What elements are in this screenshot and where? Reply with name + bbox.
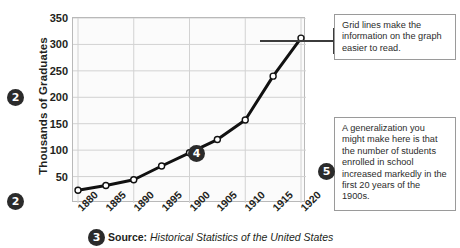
data-point — [103, 183, 109, 189]
source-text: Historical Statistics of the United Stat… — [150, 231, 333, 243]
y-tick-label: 350 — [38, 12, 68, 24]
gridlines — [73, 18, 306, 203]
chart-plot-area — [72, 17, 305, 202]
callout-leader-line — [260, 40, 334, 42]
x-axis-tick-labels: 188018851890189519001905191019151920 — [72, 203, 305, 233]
data-point — [270, 73, 276, 79]
source-label: Source: — [108, 231, 147, 243]
data-point — [159, 163, 165, 169]
y-axis-tick-labels: 350 300 250 200 150 100 50 — [32, 0, 68, 248]
step-marker-2-y-axis: 2 — [7, 89, 24, 106]
callout-generalization-note: A generalization you might make here is … — [334, 117, 456, 211]
data-point — [214, 137, 220, 143]
step-marker-3-source: 3 — [88, 229, 105, 246]
y-tick-label: 150 — [38, 118, 68, 130]
data-point — [242, 117, 248, 123]
y-tick-label: 250 — [38, 65, 68, 77]
step-marker-4-plot: 4 — [188, 145, 205, 162]
y-tick-label: 300 — [38, 38, 68, 50]
y-tick-label: 50 — [38, 171, 68, 183]
source-caption: Source: Historical Statistics of the Uni… — [108, 231, 333, 243]
data-point — [75, 187, 81, 193]
y-tick-label: 200 — [38, 91, 68, 103]
data-point — [131, 177, 137, 183]
callout-grid-lines-note: Grid lines make the information on the g… — [334, 14, 456, 60]
step-marker-2-x-axis: 2 — [7, 193, 24, 210]
y-tick-label: 100 — [38, 144, 68, 156]
line-chart-svg — [73, 18, 306, 203]
step-marker-5-callout: 5 — [318, 163, 335, 180]
